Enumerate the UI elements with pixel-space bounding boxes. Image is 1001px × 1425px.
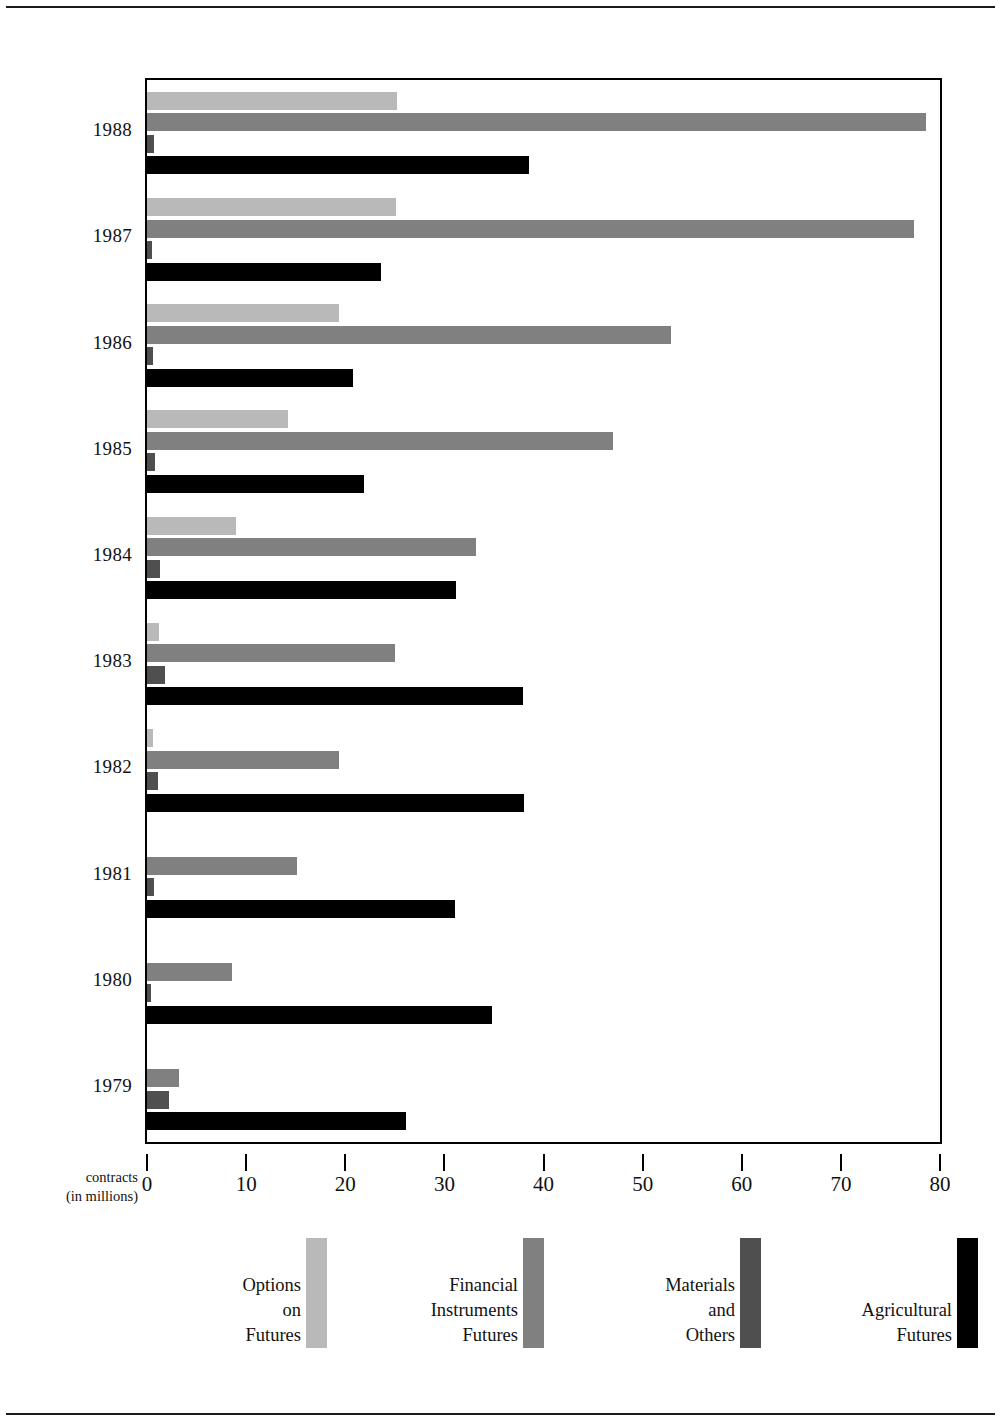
bar-track bbox=[147, 794, 940, 812]
year-group-1988 bbox=[147, 92, 940, 175]
bar-track bbox=[147, 1091, 940, 1109]
year-label-1983: 1983 bbox=[22, 650, 132, 672]
bar-track bbox=[147, 900, 940, 918]
bar-track bbox=[147, 326, 940, 344]
bar[interactable] bbox=[147, 92, 397, 110]
bar-track bbox=[147, 475, 940, 493]
bar[interactable] bbox=[147, 666, 165, 684]
bar-track bbox=[147, 835, 940, 853]
bar[interactable] bbox=[147, 369, 353, 387]
x-tick-mark bbox=[642, 1154, 644, 1171]
bar-track bbox=[147, 941, 940, 959]
bar[interactable] bbox=[147, 156, 529, 174]
legend-item-1[interactable]: Options on Futures bbox=[120, 1218, 327, 1348]
bar-track bbox=[147, 347, 940, 365]
x-tick-mark bbox=[443, 1154, 445, 1171]
year-group-1979 bbox=[147, 1048, 940, 1131]
bar[interactable] bbox=[147, 581, 456, 599]
year-label-1982: 1982 bbox=[22, 756, 132, 778]
plot-area bbox=[145, 78, 942, 1144]
year-label-1985: 1985 bbox=[22, 438, 132, 460]
bar[interactable] bbox=[147, 900, 455, 918]
bar-track bbox=[147, 1006, 940, 1024]
bar-track bbox=[147, 135, 940, 153]
bar-track bbox=[147, 241, 940, 259]
bar[interactable] bbox=[147, 347, 153, 365]
x-axis-title: contracts (in millions) bbox=[10, 1168, 138, 1206]
bar-track bbox=[147, 666, 940, 684]
year-group-1986 bbox=[147, 304, 940, 387]
year-group-1980 bbox=[147, 941, 940, 1024]
bar-track bbox=[147, 857, 940, 875]
bar-track bbox=[147, 113, 940, 131]
bar[interactable] bbox=[147, 794, 524, 812]
bar[interactable] bbox=[147, 729, 153, 747]
bar-track bbox=[147, 1048, 940, 1066]
bar-track bbox=[147, 517, 940, 535]
bar-track bbox=[147, 729, 940, 747]
bar-track bbox=[147, 198, 940, 216]
year-group-1983 bbox=[147, 623, 940, 706]
bar-track bbox=[147, 963, 940, 981]
bar[interactable] bbox=[147, 878, 154, 896]
x-axis-title-line2: (in millions) bbox=[10, 1187, 138, 1206]
bar[interactable] bbox=[147, 241, 152, 259]
bar[interactable] bbox=[147, 963, 232, 981]
bar[interactable] bbox=[147, 304, 339, 322]
x-tick-mark bbox=[344, 1154, 346, 1171]
bar[interactable] bbox=[147, 687, 523, 705]
x-tick-label: 60 bbox=[712, 1172, 772, 1197]
bar[interactable] bbox=[147, 326, 671, 344]
legend-swatch bbox=[740, 1238, 761, 1348]
year-group-1985 bbox=[147, 410, 940, 493]
bar-track bbox=[147, 560, 940, 578]
bar[interactable] bbox=[147, 644, 395, 662]
bar-track bbox=[147, 1112, 940, 1130]
bar[interactable] bbox=[147, 984, 151, 1002]
bar[interactable] bbox=[147, 475, 364, 493]
legend-item-2[interactable]: Financial Instruments Futures bbox=[337, 1218, 544, 1348]
bar[interactable] bbox=[147, 560, 160, 578]
bar[interactable] bbox=[147, 751, 339, 769]
x-tick-label: 10 bbox=[216, 1172, 276, 1197]
bar-track bbox=[147, 453, 940, 471]
bar[interactable] bbox=[147, 220, 914, 238]
bar[interactable] bbox=[147, 432, 613, 450]
bar[interactable] bbox=[147, 410, 288, 428]
x-tick-mark bbox=[543, 1154, 545, 1171]
year-label-1987: 1987 bbox=[22, 225, 132, 247]
legend-swatch bbox=[523, 1238, 544, 1348]
bar[interactable] bbox=[147, 198, 396, 216]
x-tick-mark bbox=[245, 1154, 247, 1171]
bar[interactable] bbox=[147, 1006, 492, 1024]
x-axis: 01020304050607080 bbox=[145, 1144, 942, 1204]
year-label-1986: 1986 bbox=[22, 332, 132, 354]
bar[interactable] bbox=[147, 1091, 169, 1109]
bar[interactable] bbox=[147, 517, 236, 535]
bar-track bbox=[147, 263, 940, 281]
year-label-1980: 1980 bbox=[22, 969, 132, 991]
bar[interactable] bbox=[147, 453, 155, 471]
year-label-1979: 1979 bbox=[22, 1075, 132, 1097]
bar[interactable] bbox=[147, 113, 926, 131]
bar-track bbox=[147, 581, 940, 599]
bar[interactable] bbox=[147, 1069, 179, 1087]
bar-track bbox=[147, 878, 940, 896]
legend-item-3[interactable]: Materials and Others bbox=[554, 1218, 761, 1348]
year-group-1984 bbox=[147, 517, 940, 600]
x-tick-mark bbox=[840, 1154, 842, 1171]
x-tick-mark bbox=[741, 1154, 743, 1171]
year-label-1988: 1988 bbox=[22, 119, 132, 141]
bar[interactable] bbox=[147, 1112, 406, 1130]
bar[interactable] bbox=[147, 263, 381, 281]
x-tick-label: 50 bbox=[613, 1172, 673, 1197]
bar-track bbox=[147, 410, 940, 428]
bar-track bbox=[147, 220, 940, 238]
bar[interactable] bbox=[147, 538, 476, 556]
bar[interactable] bbox=[147, 772, 158, 790]
bar[interactable] bbox=[147, 623, 159, 641]
bar[interactable] bbox=[147, 135, 154, 153]
legend-item-4[interactable]: Agricultural Futures bbox=[771, 1218, 978, 1348]
year-group-1982 bbox=[147, 729, 940, 812]
bar[interactable] bbox=[147, 857, 297, 875]
